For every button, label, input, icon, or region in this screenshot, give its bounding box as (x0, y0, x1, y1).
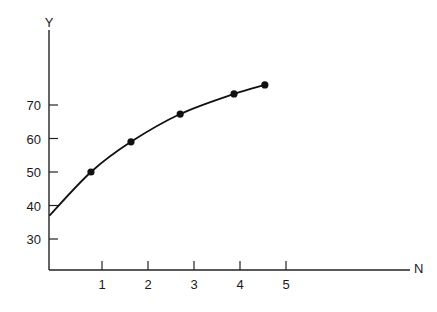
data-series (50, 81, 269, 215)
x-tick-label: 1 (98, 277, 105, 292)
data-point-marker (177, 110, 184, 117)
x-ticks: 12345 (98, 261, 289, 292)
data-curve (50, 85, 265, 216)
x-tick-label: 2 (144, 277, 151, 292)
chart-container: Y N 3040506070 12345 (0, 0, 437, 312)
y-tick-label: 40 (27, 199, 41, 214)
x-tick-label: 5 (282, 277, 289, 292)
data-point-marker (127, 138, 134, 145)
y-ticks: 3040506070 (27, 98, 58, 247)
line-chart: Y N 3040506070 12345 (0, 0, 437, 312)
data-markers (87, 81, 268, 175)
y-tick-label: 30 (27, 232, 41, 247)
x-axis-label: N (414, 261, 423, 276)
x-tick-label: 3 (190, 277, 197, 292)
data-point-marker (230, 90, 237, 97)
y-axis-label: Y (45, 15, 54, 30)
y-tick-label: 70 (27, 98, 41, 113)
data-point-marker (261, 81, 268, 88)
axes: Y N 3040506070 12345 (27, 15, 424, 292)
x-tick-label: 4 (236, 277, 243, 292)
data-point-marker (87, 168, 94, 175)
y-tick-label: 50 (27, 165, 41, 180)
y-tick-label: 60 (27, 132, 41, 147)
